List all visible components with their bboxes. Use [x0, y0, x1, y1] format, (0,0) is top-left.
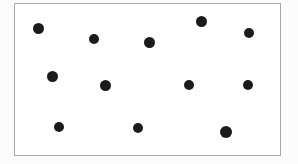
plot-frame-border	[14, 3, 281, 156]
figure-root	[0, 0, 298, 164]
